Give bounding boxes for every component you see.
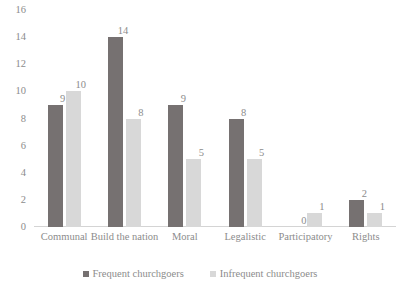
y-tick-label: 4 xyxy=(21,168,26,178)
bar xyxy=(229,119,244,228)
bar-value-label: 8 xyxy=(229,107,259,118)
bar-value-label: 14 xyxy=(108,25,138,36)
bar xyxy=(168,105,183,227)
x-tick-label: Rights xyxy=(324,231,400,244)
bar xyxy=(367,213,382,227)
bar-value-label: 9 xyxy=(168,93,198,104)
y-tick-label: 6 xyxy=(21,141,26,151)
bar xyxy=(307,213,322,227)
y-tick-label: 12 xyxy=(16,59,27,69)
y-tick-label: 16 xyxy=(16,5,27,15)
bar-group: 910 xyxy=(34,10,94,227)
bar xyxy=(247,159,262,227)
y-tick-label: 10 xyxy=(16,86,27,96)
bar-value-label: 5 xyxy=(247,147,277,158)
bar-group: 85 xyxy=(215,10,275,227)
bar xyxy=(66,91,81,227)
bar-value-label: 8 xyxy=(126,107,156,118)
bar xyxy=(108,37,123,227)
bar-group: 95 xyxy=(155,10,215,227)
bar-group: 01 xyxy=(275,10,335,227)
y-tick-label: 14 xyxy=(16,32,27,42)
y-tick-label: 8 xyxy=(21,114,26,124)
bar-value-label: 2 xyxy=(349,188,379,199)
bar-value-label: 5 xyxy=(186,147,216,158)
bar-group: 21 xyxy=(336,10,396,227)
legend-item[interactable]: Frequent churchgoers xyxy=(83,268,184,279)
y-axis: 1614121086420 xyxy=(0,0,34,240)
plot-area: 91014895850121 xyxy=(34,10,396,227)
bar xyxy=(48,105,63,227)
bar-value-label: 10 xyxy=(66,79,96,90)
legend-item[interactable]: Infrequent churchgoers xyxy=(210,268,318,279)
legend-label: Frequent churchgoers xyxy=(93,268,184,279)
y-tick-label: 2 xyxy=(21,195,26,205)
bar-value-label: 1 xyxy=(307,201,337,212)
legend-label: Infrequent churchgoers xyxy=(220,268,318,279)
bar-group: 148 xyxy=(94,10,154,227)
bar xyxy=(349,200,364,227)
bar-chart: 1614121086420 91014895850121 CommunalBui… xyxy=(0,0,400,292)
x-axis-category-labels: CommunalBuild the nationMoralLegalisticP… xyxy=(34,231,396,261)
legend-swatch-icon xyxy=(210,271,216,277)
chart-legend: Frequent churchgoersInfrequent churchgoe… xyxy=(0,268,400,279)
bar xyxy=(186,159,201,227)
legend-swatch-icon xyxy=(83,271,89,277)
bar xyxy=(126,119,141,228)
bar-value-label: 1 xyxy=(367,201,397,212)
